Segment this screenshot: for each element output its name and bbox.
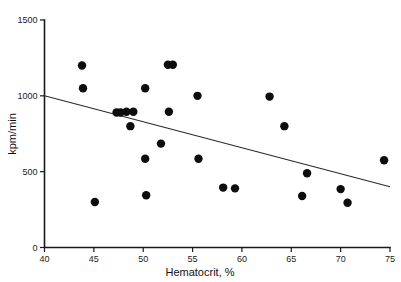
x-axis-title: Hematocrit, % [165,266,234,278]
data-point-6 [126,122,134,130]
data-point-9 [141,155,149,163]
data-point-10 [142,191,150,199]
data-point-15 [193,92,201,100]
axes [45,20,391,248]
tick-labels: 0500100015004045505560657075 [17,15,395,264]
tick-marks [40,20,390,252]
y-tick-label-1500: 1500 [17,15,37,25]
data-point-21 [298,192,306,200]
data-point-25 [380,156,388,164]
x-tick-label-75: 75 [385,254,395,264]
x-tick-label-55: 55 [188,254,198,264]
fit-line [45,96,391,187]
data-point-16 [194,155,202,163]
data-point-22 [303,169,311,177]
data-point-19 [265,92,273,100]
x-tick-label-65: 65 [286,254,296,264]
data-point-24 [343,199,351,207]
data-point-0 [78,61,86,69]
x-tick-label-50: 50 [138,254,148,264]
data-point-17 [219,183,227,191]
data-point-1 [79,84,87,92]
y-tick-label-500: 500 [22,167,37,177]
y-tick-label-0: 0 [32,243,37,253]
data-point-13 [169,61,177,69]
plot-area: 0500100015004045505560657075 Hematocrit,… [0,0,401,282]
x-tick-label-45: 45 [89,254,99,264]
y-axis-title: kpm/min [6,113,18,155]
regression-line [45,96,391,187]
data-point-23 [336,185,344,193]
y-tick-label-1000: 1000 [17,91,37,101]
data-point-8 [141,84,149,92]
data-point-2 [91,198,99,206]
data-point-18 [231,184,239,192]
data-points [78,61,388,207]
x-tick-label-70: 70 [336,254,346,264]
x-tick-label-40: 40 [39,254,49,264]
data-point-11 [157,139,165,147]
x-tick-label-60: 60 [237,254,247,264]
data-point-20 [280,122,288,130]
data-point-14 [165,108,173,116]
data-point-7 [129,108,137,116]
axis-spines [45,20,391,248]
scatter-chart: 0500100015004045505560657075 Hematocrit,… [0,0,401,282]
